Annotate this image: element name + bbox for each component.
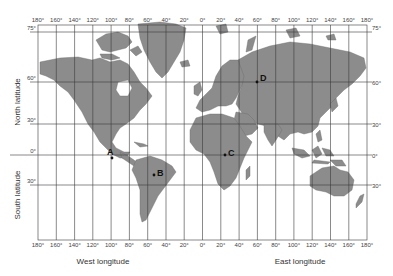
lat-tick: 30° (372, 122, 382, 128)
lon-tick: 140° (68, 242, 81, 248)
lon-tick: 80° (271, 242, 281, 248)
lon-tick: 140° (324, 242, 337, 248)
lon-tick: 40° (161, 242, 171, 248)
point-b-marker (153, 174, 156, 177)
lon-tick: 180° (361, 242, 374, 248)
land-masses (40, 22, 366, 222)
lon-tick: 20° (216, 17, 226, 23)
lon-tick: 40° (235, 242, 245, 248)
north-latitude-label: North latitude (13, 78, 22, 126)
landmass-arctic-archipelago (96, 32, 142, 60)
lon-tick: 100° (288, 242, 301, 248)
lon-tick: 0° (200, 17, 206, 23)
point-d-label: D (260, 73, 267, 83)
point-c-label: C (228, 148, 235, 158)
lon-tick: 160° (50, 17, 63, 23)
lat-tick: 75° (27, 25, 37, 31)
landmass-british-isles (194, 82, 202, 96)
point-a-label: A (107, 147, 114, 157)
lon-tick: 80° (125, 17, 135, 23)
landmass-arctic-islands-europe (216, 24, 256, 52)
lon-tick: 40° (161, 17, 171, 23)
point-b-label: B (157, 168, 164, 178)
landmass-iceland (180, 60, 190, 67)
lat-tick: 30° (372, 183, 382, 189)
lon-tick: 20° (180, 17, 190, 23)
lon-tick: 60° (253, 17, 263, 23)
lon-tick: 20° (216, 242, 226, 248)
lon-tick: 60° (143, 242, 153, 248)
lon-tick: 120° (87, 242, 100, 248)
lon-tick: 100° (105, 242, 118, 248)
lon-tick: 160° (343, 17, 356, 23)
lon-tick: 120° (87, 17, 100, 23)
lat-tick: 75° (372, 25, 382, 31)
lon-tick: 60° (143, 17, 153, 23)
west-longitude-label: West longitude (77, 257, 130, 266)
lon-tick: 20° (180, 242, 190, 248)
lon-tick: 80° (271, 17, 281, 23)
landmass-australia (310, 166, 354, 196)
point-a-marker (111, 157, 114, 160)
lat-tick: 60° (27, 75, 37, 81)
lon-tick: 40° (235, 17, 245, 23)
lon-tick: 120° (306, 242, 319, 248)
latitude-ticks-right: 75° 60° 30° 0° 30° (372, 25, 382, 189)
lon-tick: 180° (32, 242, 45, 248)
landmass-new-zealand (356, 194, 364, 208)
lon-tick: 180° (361, 17, 374, 23)
lon-tick: 160° (50, 242, 63, 248)
south-latitude-label: South latitude (13, 170, 22, 219)
lat-tick: 30° (27, 178, 37, 184)
lon-tick: 120° (306, 17, 319, 23)
lat-tick: 0° (30, 148, 36, 154)
lat-tick: 0° (372, 153, 378, 159)
east-longitude-label: East longitude (275, 257, 326, 266)
landmass-philippines (316, 130, 322, 142)
lon-tick: 140° (324, 17, 337, 23)
lat-tick: 30° (27, 117, 37, 123)
lat-tick: 60° (372, 80, 382, 86)
lon-tick: 80° (125, 242, 135, 248)
longitude-ticks-top: 180° 160° 140° 120° 100° 80° 60° 40° 20°… (32, 17, 374, 23)
landmass-arctic-islands-asia (286, 28, 336, 40)
lon-tick: 100° (288, 17, 301, 23)
point-d-marker (256, 81, 259, 84)
world-map: 180° 160° 140° 120° 100° 80° 60° 40° 20°… (0, 0, 393, 276)
landmass-new-guinea (330, 160, 346, 166)
latitude-ticks-left: 75° 60° 30° 0° 30° (27, 25, 37, 184)
lon-tick: 160° (343, 242, 356, 248)
landmass-south-america (132, 156, 176, 222)
lon-tick: 60° (253, 242, 263, 248)
landmass-greenland (138, 22, 186, 78)
point-c-marker (224, 154, 227, 157)
lon-tick: 180° (32, 17, 45, 23)
longitude-ticks-bottom: 180° 160° 140° 120° 100° 80° 60° 40° 20°… (32, 242, 374, 248)
lon-tick: 140° (68, 17, 81, 23)
lon-tick: 0° (200, 242, 206, 248)
landmass-madagascar (246, 166, 250, 180)
lon-tick: 100° (105, 17, 118, 23)
